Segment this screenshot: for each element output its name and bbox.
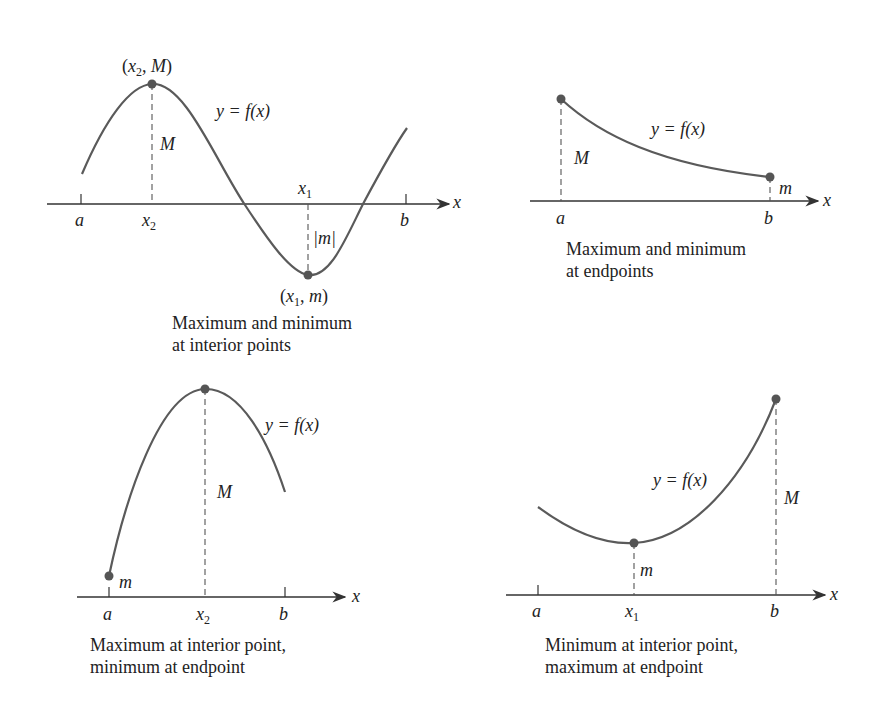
min-point [105,572,114,581]
M-label: M [573,148,590,168]
b-label: b [770,601,779,621]
func-label: y = f(x) [651,470,707,491]
caption-line: Maximum at interior point, [90,634,286,656]
min-point-label: (x1, m) [280,286,328,309]
m-label: m [119,572,132,592]
caption-line: Minimum at interior point, [545,634,738,656]
x-axis-label: x [351,586,360,606]
x-axis-label: x [822,190,831,210]
caption-line: at interior points [172,334,352,356]
panel-bottom-left: y = f(x) M m a x2 b x [77,385,360,628]
max-point [201,385,210,394]
panel-top-left: (x2, M) y = f(x) M |m| a b x2 x1 x (x1, … [47,56,461,309]
x-axis-label: x [452,192,461,212]
min-point [630,539,639,548]
panel-bottom-right: y = f(x) M m a x1 b x [506,395,838,625]
caption-bottom-right: Minimum at interior point, maximum at en… [545,634,738,678]
max-point [148,80,157,89]
M-label: M [159,134,176,154]
func-label: y = f(x) [214,101,270,122]
caption-line: maximum at endpoint [545,656,738,678]
caption-top-right: Maximum and minimum at endpoints [566,238,746,282]
b-label: b [764,208,773,228]
curve-f [109,389,285,576]
min-point [766,173,775,182]
x1-label: x1 [297,178,312,201]
caption-bottom-left: Maximum at interior point, minimum at en… [90,634,286,678]
panel-top-right: y = f(x) M m a b x [530,95,831,229]
caption-top-left: Maximum and minimum at interior points [172,312,352,356]
extrema-diagram: (x2, M) y = f(x) M |m| a b x2 x1 x (x1, … [0,0,874,702]
M-label: M [216,482,233,502]
a-label: a [556,208,565,228]
x2-label: x2 [195,604,210,627]
abs-m-label: |m| [313,228,336,248]
m-label: m [779,178,792,198]
max-point [772,395,781,404]
func-label: y = f(x) [263,415,319,436]
b-label: b [279,604,288,624]
min-point [304,271,313,280]
caption-line: minimum at endpoint [90,656,286,678]
max-point-label: (x2, M) [122,56,172,79]
a-label: a [75,210,84,230]
a-label: a [103,604,112,624]
m-label: m [640,560,653,580]
x2-label: x2 [141,210,156,233]
func-label: y = f(x) [649,119,705,140]
caption-line: Maximum and minimum [566,238,746,260]
a-label: a [532,601,541,621]
x-axis-label: x [829,584,838,604]
b-label: b [400,210,409,230]
caption-line: Maximum and minimum [172,312,352,334]
caption-line: at endpoints [566,260,746,282]
x1-label: x1 [624,601,639,624]
M-label: M [783,488,800,508]
max-point [557,95,566,104]
